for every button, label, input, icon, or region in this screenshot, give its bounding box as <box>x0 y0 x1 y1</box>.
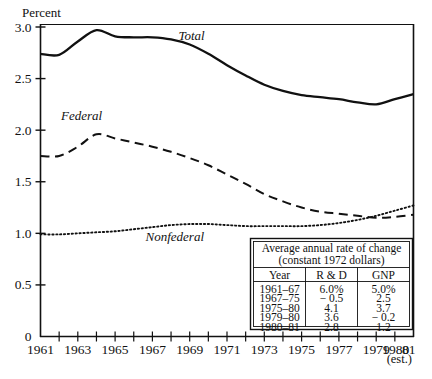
y-tick-label: 0.5 <box>15 277 32 292</box>
table-cell: 2.8 <box>324 321 339 333</box>
rate-of-change-table: Average annual rate of change (constant … <box>251 239 413 333</box>
table-column-header: GNP <box>372 269 395 281</box>
series-label-nonfederal: Nonfederal <box>145 229 205 244</box>
y-axis-title: Percent <box>22 5 61 20</box>
rd-spending-line-chart: Percent 00.51.01.52.02.53.0 196119631965… <box>0 0 432 379</box>
table-column-header: Year <box>269 269 290 281</box>
x-tick-label: 1967 <box>139 342 166 357</box>
table-title-line2: (constant 1972 dollars) <box>278 254 384 267</box>
series-label-federal: Federal <box>60 108 103 123</box>
x-axis-estimate-note: (est.) <box>387 352 412 366</box>
table-header-row: YearR & DGNP <box>269 269 395 281</box>
y-tick-label: 1.0 <box>15 226 32 241</box>
x-tick-label: 1965 <box>102 342 129 357</box>
table-column-header: R & D <box>316 269 347 281</box>
x-tick-label: 1977 <box>325 342 352 357</box>
table-cell: 1980–81 <box>259 321 300 333</box>
chart-figure: Percent 00.51.01.52.02.53.0 196119631965… <box>0 0 432 379</box>
y-tick-label: 2.5 <box>15 71 32 86</box>
y-tick-label: 1.5 <box>15 174 32 189</box>
x-tick-label: 1973 <box>251 342 278 357</box>
x-tick-label: 1961 <box>27 342 54 357</box>
x-tick-label: 1969 <box>176 342 203 357</box>
table-cell: 1.2 <box>376 321 391 333</box>
y-tick-label: 3.0 <box>15 20 32 35</box>
table-body: 1961–676.0%5.0%1967–75− 0.52.51975–804.1… <box>259 283 396 333</box>
x-tick-label: 1975 <box>288 342 315 357</box>
x-tick-label: 1963 <box>64 342 91 357</box>
series-label-total: Total <box>178 28 205 43</box>
y-tick-label: 2.0 <box>15 123 32 138</box>
x-tick-label: 1971 <box>214 342 241 357</box>
